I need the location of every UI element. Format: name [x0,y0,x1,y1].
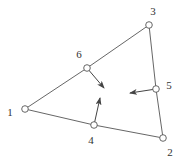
node-label-6: 6 [76,49,82,60]
node-label-2: 2 [167,147,173,158]
diagram-canvas: 1 2 3 4 5 6 [0,0,180,160]
arrow-from-node-6 [87,68,104,88]
edge-6-1 [25,68,87,109]
node-6 [84,65,91,72]
node-1 [22,106,29,113]
edge-5-3 [149,25,156,89]
arrow-from-node-5 [130,89,156,93]
node-3 [146,22,153,29]
node-label-4: 4 [88,135,94,146]
node-label-3: 3 [150,6,156,17]
edge-4-2 [94,125,163,138]
arrow-from-node-4 [94,98,100,125]
edge-1-4 [25,109,94,125]
edges [25,25,163,138]
node-5 [153,86,160,93]
edge-3-6 [87,25,149,68]
arrows [87,68,156,125]
node-label-5: 5 [166,80,172,91]
node-2 [160,135,167,142]
node-4 [91,122,98,129]
nodes [22,22,167,142]
edge-2-5 [156,89,163,138]
node-label-1: 1 [7,107,13,118]
